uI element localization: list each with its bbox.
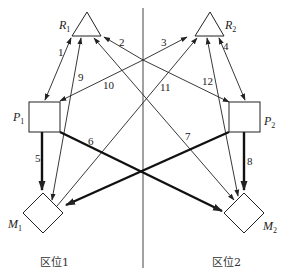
label-m2: M2 [262, 219, 277, 235]
edge-label-8: 8 [247, 155, 253, 167]
edge-label-3: 3 [161, 36, 167, 48]
node-p1-box[interactable] [29, 102, 60, 132]
node-r2-triangle[interactable] [195, 12, 224, 36]
edge-label-5: 5 [35, 152, 41, 164]
edge-label-4: 4 [223, 40, 229, 52]
edge-2-10-tail [143, 60, 229, 102]
node-r1-triangle[interactable] [72, 12, 101, 36]
label-p2: P2 [263, 114, 275, 130]
edge-label-2: 2 [119, 36, 125, 48]
edge-label-1: 1 [58, 46, 64, 58]
edge-label-7: 7 [185, 130, 191, 142]
edge-label-12: 12 [202, 75, 213, 87]
edge-label-9: 9 [78, 71, 84, 83]
label-m1: M1 [7, 217, 22, 233]
node-m1-diamond[interactable] [23, 193, 63, 233]
label-r2: R2 [224, 18, 236, 34]
label-r1: R1 [58, 18, 70, 34]
edge-label-6: 6 [88, 135, 94, 147]
supply-chain-diagram: R1 R2 P1 P2 M1 M2 1 2 3 4 5 6 7 8 9 10 1… [0, 0, 284, 275]
label-p1: P1 [12, 110, 24, 126]
node-p2-box[interactable] [229, 102, 260, 132]
edge-label-10: 10 [103, 79, 115, 91]
zone-label-2: 区位2 [212, 255, 241, 269]
node-m2-diamond[interactable] [224, 193, 264, 233]
edge-label-11: 11 [160, 81, 171, 93]
edge-11 [57, 38, 197, 206]
edge-7 [94, 38, 234, 200]
thin-edges [45, 37, 245, 206]
zone-label-1: 区位1 [40, 255, 69, 269]
